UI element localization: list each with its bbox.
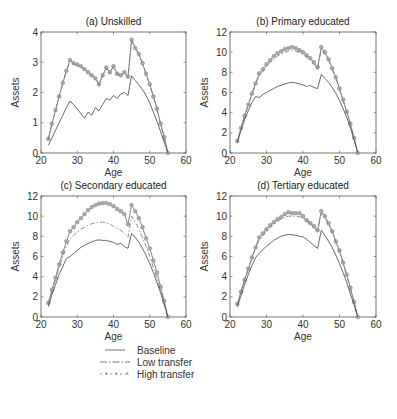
x-tick-label: 50 [144,155,156,166]
star-marker-icon [334,75,338,79]
star-marker-icon [130,203,134,207]
legend-label: Low transfer [137,357,193,368]
panel-c-secondary-educated: (c) Secondary educated203040506002468101… [10,180,192,342]
star-marker-icon [141,61,145,65]
series-high-transfer [48,203,168,317]
figure-four-panel-assets-chart: (a) Unskilled203040506001234AgeAssets(b)… [0,0,397,419]
y-tick-label: 2 [32,87,38,98]
star-marker-icon [276,51,280,55]
star-markers [235,45,359,155]
star-marker-icon [257,235,261,239]
y-tick-label: 4 [32,27,38,38]
series-high-transfer [237,47,357,153]
chart-panels: (a) Unskilled203040506001234AgeAssets(b)… [10,16,382,342]
star-marker-icon [159,122,163,126]
star-marker-icon: *** [105,371,129,378]
legend-item-baseline: Baseline [105,345,176,356]
star-marker-icon [83,212,87,216]
svg-text:*: * [105,371,108,378]
series-low-transfer [48,41,168,154]
star-marker-icon [137,216,141,220]
y-tick-label: 2 [32,291,38,302]
star-marker-icon [323,214,327,218]
series-baseline [48,233,168,317]
star-marker-icon [279,215,283,219]
y-tick-label: 10 [216,47,228,58]
x-tick-label: 50 [334,319,346,330]
y-tick-label: 0 [221,312,227,323]
y-tick-label: 4 [221,271,227,282]
y-tick-label: 6 [221,251,227,262]
star-marker-icon [283,212,287,216]
svg-text:*: * [115,371,118,378]
star-marker-icon [151,95,155,99]
panel-title: (a) Unskilled [86,16,142,27]
star-marker-icon [254,246,258,250]
series-baseline [48,76,168,153]
star-marker-icon [115,207,119,211]
star-marker-icon [101,201,105,205]
y-tick-label: 1 [32,117,38,128]
star-marker-icon [265,227,269,231]
star-marker-icon [68,229,72,233]
panel-title: (b) Primary educated [256,16,349,27]
star-marker-icon [308,56,312,60]
x-tick-label: 60 [180,319,192,330]
star-marker-icon [297,211,301,215]
panel-a-unskilled: (a) Unskilled203040506001234AgeAssets [10,16,192,178]
x-tick-label: 60 [370,319,382,330]
series-high-transfer [48,40,168,153]
legend-label: High transfer [137,369,195,380]
y-tick-label: 10 [216,211,228,222]
y-tick-label: 0 [32,312,38,323]
star-marker-icon [119,209,123,213]
star-marker-icon [133,209,137,213]
series-baseline [237,74,357,153]
y-tick-label: 0 [221,148,227,159]
x-tick-label: 30 [261,319,273,330]
series-low-transfer [48,216,168,317]
y-tick-label: 6 [221,87,227,98]
star-marker-icon [294,46,298,50]
star-marker-icon [108,202,112,206]
y-tick-label: 12 [216,27,228,38]
svg-text:*: * [126,371,129,378]
panel-title: (c) Secondary educated [60,180,166,191]
x-tick-label: 50 [334,155,346,166]
star-marker-icon [141,225,145,229]
x-tick-label: 40 [108,155,120,166]
star-marker-icon [75,220,79,224]
y-axis-label: Assets [10,77,21,107]
star-marker-icon [104,201,108,205]
y-tick-label: 8 [32,231,38,242]
star-marker-icon [122,212,126,216]
y-tick-label: 12 [27,191,39,202]
star-marker-icon [90,205,94,209]
y-axis-label: Assets [199,241,210,271]
star-marker-icon [287,210,291,214]
star-marker-icon [319,209,323,213]
star-marker-icon [151,259,155,263]
star-marker-icon [279,49,283,53]
x-axis-label: Age [105,167,123,178]
y-tick-label: 0 [32,148,38,159]
star-marker-icon [133,46,137,50]
x-tick-label: 60 [370,155,382,166]
y-tick-label: 8 [221,67,227,78]
x-tick-label: 30 [261,155,273,166]
plot-frame [41,32,186,153]
x-axis-label: Age [105,331,123,342]
legend-item-high-transfer: *** High transfer [100,369,195,380]
y-tick-label: 2 [221,127,227,138]
star-marker-icon [126,222,130,226]
x-tick-label: 40 [297,319,309,330]
star-marker-icon [112,204,116,208]
star-marker-icon [290,211,294,215]
y-tick-label: 4 [32,271,38,282]
x-axis-label: Age [294,331,312,342]
x-tick-label: 30 [72,155,84,166]
y-tick-label: 12 [216,191,228,202]
panel-b-primary-educated: (b) Primary educated2030405060024681012A… [199,16,382,178]
y-tick-label: 4 [221,107,227,118]
y-axis-label: Assets [199,77,210,107]
